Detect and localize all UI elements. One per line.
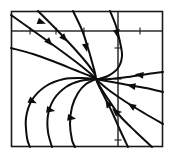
- phase-portrait-canvas: [0, 0, 173, 157]
- phase-portrait-figure: [0, 0, 173, 157]
